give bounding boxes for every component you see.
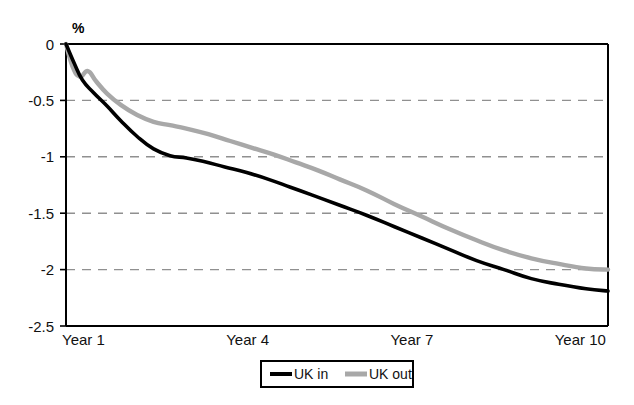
x-tick-label: Year 1	[62, 331, 105, 348]
series-line-uk-in	[66, 44, 608, 291]
x-tick-label: Year 4	[226, 331, 269, 348]
x-tick-labels: Year 1Year 4Year 7Year 10	[62, 331, 606, 348]
plot-frame	[66, 44, 608, 326]
data-series-group	[66, 44, 608, 291]
y-tick-labels: 0-0.5-1-1.5-2-2.5	[28, 36, 54, 335]
y-tick-label: -2	[41, 261, 54, 278]
line-chart: 0-0.5-1-1.5-2-2.5 Year 1Year 4Year 7Year…	[0, 0, 634, 405]
chart-container: 0-0.5-1-1.5-2-2.5 Year 1Year 4Year 7Year…	[0, 0, 634, 405]
legend-label-uk-out: UK out	[369, 366, 412, 382]
y-axis-title: %	[72, 20, 85, 36]
y-tick-label: -0.5	[28, 92, 54, 109]
chart-legend: UK inUK out	[261, 361, 413, 387]
y-tick-label: -1	[41, 148, 54, 165]
legend-label-uk-in: UK in	[294, 366, 328, 382]
x-tick-label: Year 7	[390, 331, 433, 348]
x-tick-label: Year 10	[555, 331, 606, 348]
y-tick-label: 0	[46, 36, 54, 53]
y-tick-label: -2.5	[28, 318, 54, 335]
gridlines	[66, 100, 608, 269]
y-tick-label: -1.5	[28, 205, 54, 222]
